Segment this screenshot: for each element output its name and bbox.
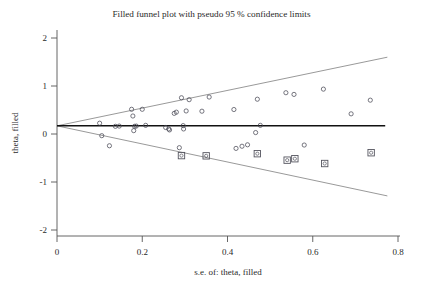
data-point-observed <box>254 130 258 134</box>
observed-studies-markers <box>98 87 373 150</box>
data-point-observed <box>98 121 102 125</box>
y-tick-label: -2 <box>40 225 48 235</box>
x-axis-ticks: 00.20.40.60.8 <box>55 236 404 257</box>
y-tick-label: -1 <box>40 177 48 187</box>
y-axis-title: theta, filled <box>10 112 20 153</box>
x-tick-label: 0 <box>55 247 60 257</box>
y-tick-label: 2 <box>43 33 48 43</box>
funnel-lower-limit <box>57 126 387 196</box>
funnel-upper-limit <box>57 57 387 126</box>
x-tick-label: 0.2 <box>137 247 148 257</box>
data-point-filled <box>284 157 290 163</box>
y-axis-ticks: 210-1-2 <box>40 33 58 235</box>
x-tick-label: 0.8 <box>392 247 404 257</box>
data-point-observed <box>167 128 171 132</box>
data-point-observed <box>240 144 244 148</box>
plot-axes <box>57 30 400 236</box>
x-axis-title: s.e. of: theta, filled <box>194 267 262 277</box>
data-point-observed <box>284 91 288 95</box>
data-point-observed <box>184 109 188 113</box>
x-tick-label: 0.4 <box>222 247 234 257</box>
data-point-observed <box>131 114 135 118</box>
data-point-observed <box>302 143 306 147</box>
data-point-filled <box>321 160 327 166</box>
data-point-observed <box>200 109 204 113</box>
data-point-observed <box>129 107 133 111</box>
x-tick-label: 0.6 <box>307 247 319 257</box>
data-point-observed <box>234 146 238 150</box>
data-point-observed <box>207 95 211 99</box>
y-tick-label: 0 <box>43 129 48 139</box>
data-point-observed <box>245 143 249 147</box>
funnel-plot-canvas: Filled funnel plot with pseudo 95 % conf… <box>0 0 423 292</box>
data-point-observed <box>292 92 296 96</box>
data-point-filled <box>178 152 184 158</box>
chart-title: Filled funnel plot with pseudo 95 % conf… <box>112 9 310 19</box>
data-point-observed <box>179 96 183 100</box>
data-point-observed <box>107 144 111 148</box>
data-point-filled <box>254 150 260 156</box>
funnel-plot-figure: Filled funnel plot with pseudo 95 % conf… <box>0 0 423 292</box>
data-point-observed <box>349 112 353 116</box>
data-point-observed <box>321 87 325 91</box>
data-point-observed <box>177 146 181 150</box>
data-point-observed <box>368 98 372 102</box>
y-tick-label: 1 <box>43 81 48 91</box>
data-point-filled <box>368 150 374 156</box>
data-point-observed <box>255 97 259 101</box>
data-point-observed <box>132 129 136 133</box>
data-point-filled <box>292 156 298 162</box>
data-point-observed <box>232 107 236 111</box>
